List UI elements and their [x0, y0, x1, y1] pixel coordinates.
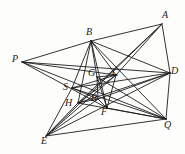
vertex-label-S: S — [63, 82, 68, 92]
vertex-label-F: F — [101, 107, 107, 117]
vertex-label-A: A — [162, 10, 168, 20]
segment-E-S — [46, 88, 72, 136]
segment-A-E — [46, 24, 162, 136]
vertex-label-D: D — [171, 66, 178, 76]
geometry-figure: PABDQEGCSHRF — [0, 0, 185, 154]
vertex-label-G: G — [88, 68, 95, 78]
segment-Q-E — [46, 119, 166, 136]
vertex-label-R: R — [91, 93, 97, 103]
segment-D-Q — [166, 73, 170, 119]
segment-E-H — [46, 103, 78, 136]
vertex-label-B: B — [86, 27, 92, 37]
vertex-label-E: E — [41, 136, 47, 146]
vertex-label-Q: Q — [164, 120, 171, 130]
segment-P-C — [22, 62, 116, 75]
segment-Q-S — [72, 88, 166, 119]
segment-P-B — [22, 41, 91, 62]
vertex-label-P: P — [12, 54, 18, 64]
segment-B-S — [72, 41, 91, 88]
segment-B-A — [91, 24, 162, 41]
segment-A-D — [162, 24, 170, 73]
segment-layer — [22, 24, 170, 136]
vertex-label-C: C — [112, 68, 119, 78]
vertex-label-H: H — [65, 98, 72, 108]
